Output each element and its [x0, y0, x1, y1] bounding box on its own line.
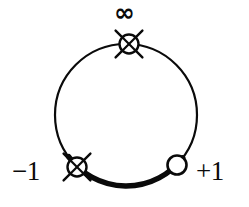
marker-minus-one	[64, 154, 91, 181]
marker-plus-one-circle	[168, 156, 187, 175]
label-minus-one: −1	[12, 158, 40, 185]
label-plus-one: +1	[196, 158, 224, 185]
label-infinity: ∞	[114, 0, 135, 25]
figure-canvas: ∞ −1 +1	[0, 0, 249, 207]
marker-infinity	[116, 31, 143, 58]
marker-plus-one	[168, 156, 187, 175]
